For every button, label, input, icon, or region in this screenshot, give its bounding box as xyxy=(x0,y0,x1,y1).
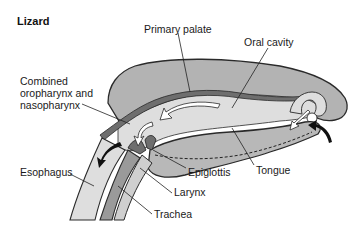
label-larynx: Larynx xyxy=(174,186,206,198)
label-trachea: Trachea xyxy=(154,208,192,220)
label-combined-2: oropharynx and xyxy=(20,87,93,99)
label-combined-3: nasopharynx xyxy=(20,99,81,111)
lizard-airway-diagram: Lizard Primary palate Oral cavity Combin… xyxy=(0,0,353,239)
label-esophagus: Esophagus xyxy=(20,166,73,178)
label-epiglottis: Epiglottis xyxy=(188,166,231,178)
label-combined-1: Combined xyxy=(20,75,68,87)
label-primary-palate: Primary palate xyxy=(144,23,212,35)
label-oral-cavity: Oral cavity xyxy=(244,36,294,48)
label-tongue: Tongue xyxy=(256,164,291,176)
diagram-title: Lizard xyxy=(17,15,49,27)
